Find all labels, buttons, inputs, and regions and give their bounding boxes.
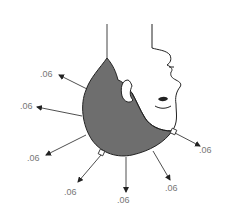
label-left: .06 [20, 101, 33, 111]
label-bottom-right: .06 [165, 183, 178, 193]
label-upper-left: .06 [40, 69, 53, 79]
arrow-bottom-left [78, 155, 101, 182]
arrow-upper-left [59, 75, 87, 89]
hair-region [83, 58, 172, 156]
arrow-right [175, 133, 200, 146]
head-diagram [0, 0, 226, 208]
eye [158, 97, 168, 102]
label-bottom: .06 [117, 195, 130, 205]
ear [121, 80, 133, 102]
label-lower-left: .06 [27, 153, 40, 163]
label-right: .06 [199, 145, 212, 155]
arrow-lower-left [46, 135, 86, 155]
label-bottom-left: .06 [64, 187, 77, 197]
brow [155, 106, 171, 108]
arrow-left [37, 107, 82, 116]
arrow-bottom-right [153, 151, 170, 180]
